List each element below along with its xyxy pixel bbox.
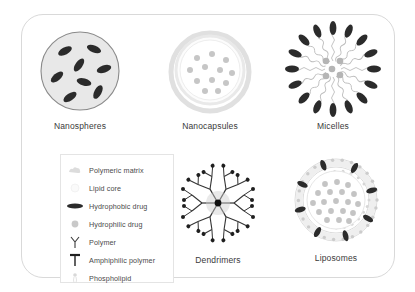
figure-frame: Nanospheres (21, 14, 395, 278)
legend-label-polymer: Polymer (89, 238, 116, 247)
label-dendrimers: Dendrimers (158, 255, 278, 265)
diagram-micelles: Micelles (285, 21, 381, 117)
diagram-nanocapsules: Nanocapsules (164, 25, 256, 117)
micelles-figure (285, 21, 381, 117)
label-nanospheres: Nanospheres (20, 121, 140, 131)
micelles-svg (285, 21, 381, 117)
legend-item-polymeric-matrix: Polymeric matrix (61, 161, 173, 179)
legend-item-phospholipid: Phospholipid (61, 269, 173, 287)
dendrimers-svg (170, 155, 266, 251)
legend-item-hydrophobic-drug: Hydrophobic drug (61, 197, 173, 215)
nanocapsules-svg (164, 25, 256, 117)
liposomes-svg (287, 151, 385, 249)
dendrimers-figure (170, 155, 266, 251)
label-nanocapsules: Nanocapsules (150, 121, 270, 131)
legend-item-lipid-core: Lipid core (61, 179, 173, 197)
legend-label-hydrophilic-drug: Hydrophilic drug (89, 220, 143, 229)
nanospheres-figure (34, 25, 126, 117)
hydrophobic-drug-icon (61, 197, 89, 215)
legend-label-phospholipid: Phospholipid (89, 274, 131, 283)
nanospheres-svg (34, 25, 126, 117)
label-micelles: Micelles (273, 121, 393, 131)
diagram-liposomes: Liposomes (287, 151, 385, 249)
legend-label-amphiphilic-polymer: Amphiphilic polymer (89, 256, 155, 265)
legend-label-lipid-core: Lipid core (89, 184, 121, 193)
lipid-core-icon (61, 179, 89, 197)
legend-label-polymeric-matrix: Polymeric matrix (89, 166, 144, 175)
diagram-dendrimers: Dendrimers (170, 155, 266, 251)
polymer-icon (61, 233, 89, 251)
liposomes-figure (287, 151, 385, 249)
legend-item-polymer: Polymer (61, 233, 173, 251)
nanocapsules-figure (164, 25, 256, 117)
amphiphilic-polymer-icon (61, 251, 89, 269)
legend-box: Polymeric matrix Lipid core Hydrophobic … (60, 154, 174, 283)
phospholipid-icon (61, 269, 89, 287)
legend-label-hydrophobic-drug: Hydrophobic drug (89, 202, 147, 211)
legend-item-amphiphilic-polymer: Amphiphilic polymer (61, 251, 173, 269)
polymeric-matrix-icon (61, 161, 89, 179)
label-liposomes: Liposomes (276, 253, 396, 263)
legend-item-hydrophilic-drug: Hydrophilic drug (61, 215, 173, 233)
diagram-nanospheres: Nanospheres (34, 25, 126, 117)
hydrophilic-drug-icon (61, 215, 89, 233)
